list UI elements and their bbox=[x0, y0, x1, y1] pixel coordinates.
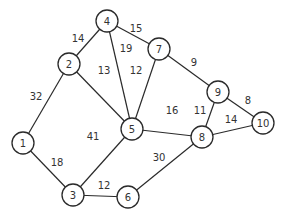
edge-weight-label: 41 bbox=[87, 131, 100, 142]
edge-weight-label: 14 bbox=[72, 33, 85, 44]
node-label: 10 bbox=[257, 118, 270, 129]
edge-4-5 bbox=[107, 21, 132, 129]
edge-weight-label: 12 bbox=[130, 65, 143, 76]
edge-weight-label: 8 bbox=[245, 95, 251, 106]
edge-weight-label: 16 bbox=[166, 105, 179, 116]
node-label: 2 bbox=[66, 59, 72, 70]
node-label: 6 bbox=[125, 192, 131, 203]
node-label: 3 bbox=[70, 190, 76, 201]
edge-7-5 bbox=[132, 49, 159, 129]
nodes-group: 12345678910 bbox=[12, 10, 274, 208]
node-label: 1 bbox=[20, 138, 26, 149]
edge-1-2 bbox=[23, 64, 69, 143]
node-2: 2 bbox=[58, 53, 80, 75]
edge-weight-label: 32 bbox=[30, 91, 43, 102]
edge-weight-label: 11 bbox=[194, 105, 207, 116]
node-5: 5 bbox=[121, 118, 143, 140]
edge-weight-label: 30 bbox=[153, 152, 166, 163]
edge-weight-label: 14 bbox=[225, 114, 238, 125]
edge-weight-label: 18 bbox=[51, 157, 64, 168]
node-label: 5 bbox=[129, 124, 135, 135]
edge-weight-label: 12 bbox=[98, 180, 111, 191]
edge-weight-label: 9 bbox=[191, 57, 197, 68]
edge-weight-label: 13 bbox=[98, 65, 111, 76]
edge-weight-label: 19 bbox=[120, 43, 133, 54]
node-label: 4 bbox=[104, 16, 110, 27]
edge-weight-label: 15 bbox=[130, 23, 143, 34]
node-9: 9 bbox=[207, 81, 229, 103]
node-label: 7 bbox=[156, 44, 162, 55]
edge-labels-group: 3218141315191291641123011814 bbox=[30, 23, 252, 191]
node-7: 7 bbox=[148, 38, 170, 60]
node-10: 10 bbox=[252, 112, 274, 134]
node-1: 1 bbox=[12, 132, 34, 154]
node-3: 3 bbox=[62, 184, 84, 206]
node-4: 4 bbox=[96, 10, 118, 32]
edges-group bbox=[23, 21, 263, 197]
node-label: 8 bbox=[199, 132, 205, 143]
node-8: 8 bbox=[191, 126, 213, 148]
node-6: 6 bbox=[117, 186, 139, 208]
edge-6-8 bbox=[128, 137, 202, 197]
weighted-graph-diagram: 3218141315191291641123011814 12345678910 bbox=[0, 0, 289, 218]
node-label: 9 bbox=[215, 87, 221, 98]
